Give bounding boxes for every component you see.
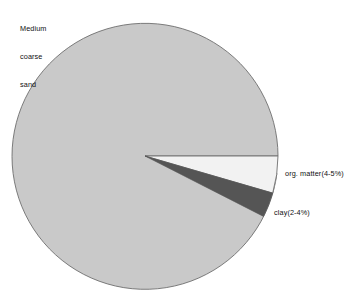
slice-label-line-1: Medium [20,24,47,33]
pie-chart-canvas [0,0,355,297]
pie-chart: Medium coarse sand org. matter(4-5%) cla… [0,0,355,297]
slice-label-clay: clay(2-4%) [274,208,310,217]
slice-label-line-3: sand [20,80,47,89]
slice-label-org-matter: org. matter(4-5%) [285,169,344,178]
slice-label-line-2: coarse [20,52,47,61]
slice-label-medium-coarse-sand: Medium coarse sand [20,6,47,107]
